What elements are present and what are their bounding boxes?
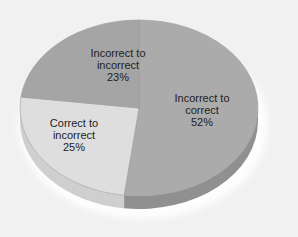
label-line1: Incorrect to	[58, 47, 178, 59]
label-value: 25%	[34, 141, 114, 153]
label-line1: Incorrect to	[162, 92, 242, 104]
slice-label-incorrect-to-incorrect: Incorrect to incorrect 23%	[58, 47, 178, 83]
label-line2: incorrect	[58, 59, 178, 71]
slice-label-incorrect-to-correct: Incorrect to correct 52%	[162, 92, 242, 128]
label-line2: correct	[162, 104, 242, 116]
label-value: 52%	[162, 116, 242, 128]
label-line1: Correct to	[34, 117, 114, 129]
slice-label-correct-to-incorrect: Correct to incorrect 25%	[34, 117, 114, 153]
label-line2: incorrect	[34, 129, 114, 141]
label-value: 23%	[58, 71, 178, 83]
